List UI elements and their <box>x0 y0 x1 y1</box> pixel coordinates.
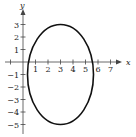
svg-text:2: 2 <box>14 33 19 42</box>
y-tick-labels: 3 2 1 −1 −2 −3 −4 −5 <box>7 21 19 130</box>
svg-text:−3: −3 <box>7 96 19 105</box>
svg-text:−1: −1 <box>7 71 19 80</box>
svg-text:2: 2 <box>45 65 50 74</box>
svg-text:1: 1 <box>33 65 38 74</box>
y-axis <box>21 9 26 134</box>
svg-text:−4: −4 <box>7 108 19 117</box>
x-axis-label: x <box>126 58 131 67</box>
svg-text:3: 3 <box>14 21 19 30</box>
svg-text:1: 1 <box>14 46 19 55</box>
x-axis <box>5 60 122 65</box>
ellipse-curve <box>28 25 94 125</box>
x-axis-arrow-icon <box>116 60 122 65</box>
svg-text:6: 6 <box>95 65 100 74</box>
svg-text:3: 3 <box>58 65 63 74</box>
svg-text:5: 5 <box>83 65 88 74</box>
ellipse-plot: 1 2 3 4 5 6 7 3 2 1 −1 −2 −3 −4 −5 x y <box>0 0 136 137</box>
x-tick-labels: 1 2 3 4 5 6 7 <box>33 65 113 74</box>
svg-text:4: 4 <box>70 65 75 74</box>
svg-text:−2: −2 <box>7 83 19 92</box>
svg-text:−5: −5 <box>7 121 19 130</box>
y-axis-label: y <box>19 1 25 10</box>
svg-text:7: 7 <box>108 65 113 74</box>
